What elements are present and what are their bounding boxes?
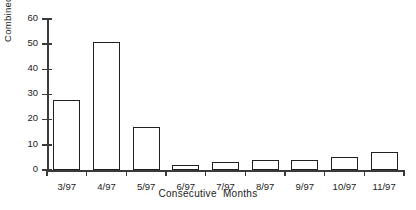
bar: [93, 42, 120, 170]
bar: [212, 162, 239, 170]
bar: [172, 165, 199, 170]
x-tick: [364, 170, 365, 176]
x-axis-spine: [47, 170, 404, 172]
x-tick: [165, 170, 166, 176]
bar: [371, 152, 398, 170]
y-tick-label: 20: [27, 112, 38, 123]
y-tick: 20: [42, 119, 52, 120]
y-tick: 10: [42, 144, 52, 145]
y-tick-label: 40: [27, 62, 38, 73]
plot-area: 0102030405060 3/974/975/976/977/978/979/…: [47, 19, 404, 170]
x-tick: [403, 170, 404, 176]
x-tick: [205, 170, 206, 176]
x-tick: [86, 170, 87, 176]
y-tick: 60: [42, 18, 52, 19]
y-tick-label: 60: [27, 12, 38, 23]
x-tick: [324, 170, 325, 176]
bar: [53, 100, 80, 170]
bar: [133, 127, 160, 170]
y-tick-label: 30: [27, 87, 38, 98]
bar: [291, 160, 318, 170]
x-tick: [284, 170, 285, 176]
bar: [252, 160, 279, 170]
bar: [331, 157, 358, 170]
bar-chart-figure: Combined Total 0102030405060 3/974/975/9…: [0, 0, 416, 210]
x-tick: [46, 170, 47, 176]
y-tick: 50: [42, 43, 52, 44]
y-axis-label: Combined Total: [2, 0, 16, 42]
x-tick: [245, 170, 246, 176]
y-tick: 30: [42, 94, 52, 95]
x-axis-label: Consecutive Months: [0, 188, 416, 199]
y-tick: 40: [42, 69, 52, 70]
y-tick-label: 0: [33, 163, 38, 174]
y-tick-label: 50: [27, 37, 38, 48]
x-tick: [126, 170, 127, 176]
y-tick-label: 10: [27, 138, 38, 149]
